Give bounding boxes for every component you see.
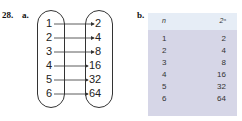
table-row: 532 (148, 82, 237, 94)
table-row: 664 (148, 94, 237, 106)
table-row: 12 (148, 34, 237, 46)
table-header: n 2ⁿ (148, 13, 237, 30)
part-b-label: b. (137, 10, 144, 20)
table-row: 24 (148, 46, 237, 58)
column-header-n: n (162, 17, 166, 24)
powers-of-two-table: n 2ⁿ 12 24 38 416 532 664 (148, 13, 237, 116)
table-row: 38 (148, 58, 237, 70)
table-row: 416 (148, 70, 237, 82)
column-header-power: 2ⁿ (220, 17, 226, 24)
